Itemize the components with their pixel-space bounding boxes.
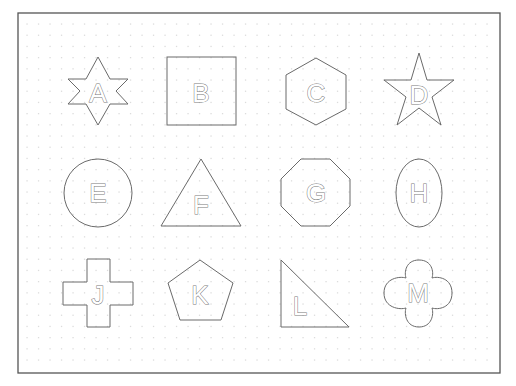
letter-c: C <box>307 78 326 108</box>
letter-b: B <box>192 78 209 108</box>
letter-a: A <box>89 78 107 108</box>
letter-d: D <box>410 80 429 110</box>
letter-e: E <box>89 178 106 208</box>
shapes-worksheet: A B C D E F G H J K L M <box>0 0 516 386</box>
letter-l: L <box>293 291 307 321</box>
letter-g: G <box>306 178 326 208</box>
letter-f: F <box>193 190 209 220</box>
letter-k: K <box>191 280 209 310</box>
letter-m: M <box>407 278 429 308</box>
letter-h: H <box>410 178 429 208</box>
letter-j: J <box>92 280 105 310</box>
